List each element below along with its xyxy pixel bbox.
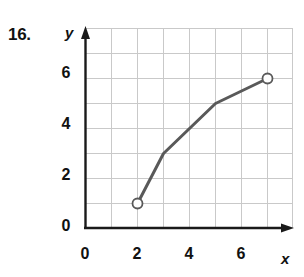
graph-svg [0,0,304,277]
exercise-figure-panel: 16. [0,0,304,277]
x-tick-label-6: 6 [232,245,250,263]
y-tick-label-4: 4 [57,115,75,133]
data-line [138,79,268,204]
x-tick-label-0: 0 [76,245,94,263]
y-tick-label-2: 2 [57,166,75,184]
y-tick-label-0: 0 [57,217,75,235]
y-axis-label: y [65,24,73,41]
y-axis [81,26,90,228]
endpoint-marker-end [263,74,273,84]
x-tick-label-4: 4 [180,245,198,263]
line-graph-figure [0,0,304,277]
x-axis-label: x [281,250,289,267]
x-tick-label-2: 2 [128,245,146,263]
y-tick-label-6: 6 [57,64,75,82]
endpoint-marker-start [133,199,143,209]
